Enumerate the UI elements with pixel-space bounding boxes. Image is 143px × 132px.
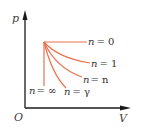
x-axis-label: V	[119, 112, 128, 125]
pv-diagram: p O V n= 0 n= 1 n= n n= γ n= ∞	[0, 0, 143, 132]
label-n-gamma: n= γ	[64, 86, 90, 97]
label-n-n: n= n	[83, 74, 109, 85]
x-axis-arrow-icon	[120, 106, 131, 111]
y-axis-arrow-icon	[23, 10, 28, 20]
curve-n-1	[44, 42, 90, 63]
origin-label: O	[14, 111, 23, 124]
y-axis-label: p	[12, 12, 19, 25]
curve-labels: n= 0 n= 1 n= n n= γ n= ∞	[29, 36, 117, 97]
label-n-1: n= 1	[91, 58, 117, 69]
label-n-0: n= 0	[88, 36, 114, 47]
label-n-infinity: n= ∞	[29, 85, 56, 96]
